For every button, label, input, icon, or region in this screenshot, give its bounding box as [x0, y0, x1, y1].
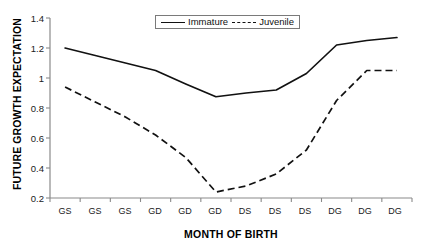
legend-label-juvenile: Juvenile — [259, 17, 294, 27]
legend-entry-immature: Immature — [161, 17, 228, 27]
legend-entry-juvenile: Juvenile — [232, 17, 294, 27]
chart-figure: FUTURE GROWTH EXPECTATION MONTH OF BIRTH… — [0, 0, 422, 248]
legend-line-dashed-icon — [232, 22, 256, 23]
chart-legend: Immature Juvenile — [155, 15, 300, 29]
axis-lines — [50, 18, 412, 198]
series-line-immature — [65, 38, 397, 97]
x-axis-ticks — [50, 198, 412, 202]
legend-line-solid-icon — [161, 22, 185, 23]
series-line-juvenile — [65, 71, 397, 193]
plot-canvas — [0, 0, 422, 248]
legend-label-immature: Immature — [188, 17, 228, 27]
